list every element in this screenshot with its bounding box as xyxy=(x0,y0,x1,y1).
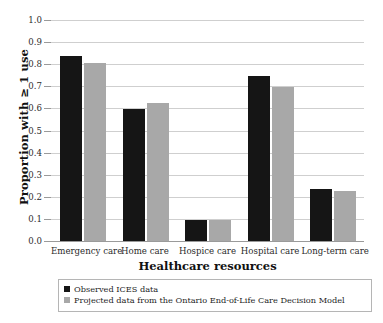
bar xyxy=(123,109,145,241)
bar-group xyxy=(301,20,364,241)
legend-item: Projected data from the Ontario End-of-L… xyxy=(64,295,366,305)
bar-chart-figure: Proportion with ≥ 1 use 1.00.90.80.70.60… xyxy=(0,0,383,323)
y-axis-tick-mark xyxy=(44,197,51,198)
legend-label: Observed ICES data xyxy=(74,284,158,294)
x-axis-tick-label: Hospice care xyxy=(176,246,239,256)
y-axis-tick-label: 0.6 xyxy=(2,104,42,113)
y-axis-tick-label: 0.9 xyxy=(2,38,42,47)
plot-area xyxy=(51,20,364,241)
y-axis-tick-mark xyxy=(44,108,51,109)
bar xyxy=(147,103,169,241)
bar xyxy=(84,63,106,241)
y-axis-tick-mark xyxy=(44,20,51,21)
x-axis-title: Healthcare resources xyxy=(51,259,364,273)
bar xyxy=(209,220,231,241)
bars-layer xyxy=(51,20,364,241)
y-axis-tick-label: 0.4 xyxy=(2,149,42,158)
bar-group xyxy=(176,20,239,241)
y-axis-tick-mark xyxy=(44,241,51,242)
gridline xyxy=(51,241,364,242)
bar xyxy=(185,220,207,241)
chart-legend: Observed ICES dataProjected data from th… xyxy=(58,279,372,312)
y-axis-tick-mark xyxy=(44,175,51,176)
y-axis-tick-mark xyxy=(44,64,51,65)
legend-swatch-projected xyxy=(64,297,70,303)
y-axis-tick-mark xyxy=(44,219,51,220)
x-axis-tick-label: Long-term care xyxy=(301,246,364,256)
bar xyxy=(60,56,82,241)
x-axis-tick-label: Home care xyxy=(114,246,177,256)
y-axis-tick-mark xyxy=(44,153,51,154)
bar xyxy=(310,189,332,241)
bar-group xyxy=(114,20,177,241)
y-axis-tick-label: 0.0 xyxy=(2,237,42,246)
y-axis-tick-label: 0.7 xyxy=(2,82,42,91)
bar-group xyxy=(51,20,114,241)
bar xyxy=(334,191,356,241)
y-axis-tick-label: 0.3 xyxy=(2,171,42,180)
legend-label: Projected data from the Ontario End-of-L… xyxy=(74,295,345,305)
y-axis-tick-label: 1.0 xyxy=(2,16,42,25)
y-axis-tick-label: 0.2 xyxy=(2,193,42,202)
y-axis-tick-mark xyxy=(44,86,51,87)
bar xyxy=(272,87,294,241)
legend-item: Observed ICES data xyxy=(64,284,366,294)
x-axis-tick-label: Emergency care xyxy=(51,246,114,256)
y-axis-tick-label: 0.8 xyxy=(2,60,42,69)
y-axis-tick-label: 0.5 xyxy=(2,127,42,136)
y-axis-tick-mark xyxy=(44,131,51,132)
bar-group xyxy=(239,20,302,241)
bar xyxy=(248,76,270,241)
y-axis-tick-label: 0.1 xyxy=(2,215,42,224)
y-axis-tick-mark xyxy=(44,42,51,43)
x-axis-tick-label: Hospital care xyxy=(239,246,302,256)
legend-swatch-observed xyxy=(64,286,70,292)
